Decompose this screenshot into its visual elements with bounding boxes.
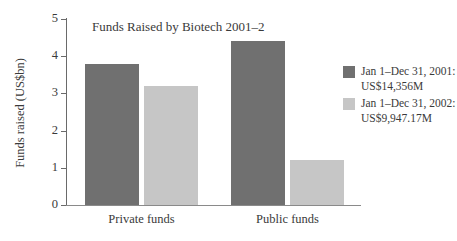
legend-swatch-2001 bbox=[343, 66, 355, 78]
chart-title: Funds Raised by Biotech 2001–2 bbox=[92, 19, 265, 35]
legend-label-2001-line1: Jan 1–Dec 31, 2001: bbox=[361, 64, 456, 79]
bar-public-funds-series-0 bbox=[231, 41, 285, 205]
y-tick bbox=[61, 19, 66, 20]
y-tick bbox=[61, 93, 66, 94]
y-tick-label: 4 bbox=[48, 49, 58, 61]
legend-label-2002-line1: Jan 1–Dec 31, 2002: bbox=[361, 96, 456, 111]
y-tick bbox=[61, 168, 66, 169]
legend-swatch-2002 bbox=[343, 98, 355, 110]
legend-label-2001-line2: US$14,356M bbox=[361, 79, 456, 94]
y-axis-label: Funds raised (US$bn) bbox=[13, 58, 28, 168]
y-tick-label: 3 bbox=[48, 86, 58, 98]
bar-private-funds-series-1 bbox=[144, 86, 198, 205]
x-category-label: Private funds bbox=[108, 212, 174, 227]
bar-private-funds-series-0 bbox=[85, 64, 139, 205]
y-tick-label: 2 bbox=[48, 124, 58, 136]
bar-public-funds-series-1 bbox=[290, 160, 344, 205]
y-tick-label: 5 bbox=[48, 12, 58, 24]
y-tick-label: 0 bbox=[48, 198, 58, 210]
y-tick bbox=[61, 205, 66, 206]
y-axis-line bbox=[66, 18, 67, 206]
bar-chart: Funds Raised by Biotech 2001–2 Funds rai… bbox=[0, 0, 457, 241]
legend-label-2002-line2: US$9,947.17M bbox=[361, 111, 456, 126]
y-tick-label: 1 bbox=[48, 161, 58, 173]
x-axis-line bbox=[66, 205, 361, 206]
x-category-label: Public funds bbox=[256, 212, 319, 227]
y-tick bbox=[61, 131, 66, 132]
y-tick bbox=[61, 56, 66, 57]
